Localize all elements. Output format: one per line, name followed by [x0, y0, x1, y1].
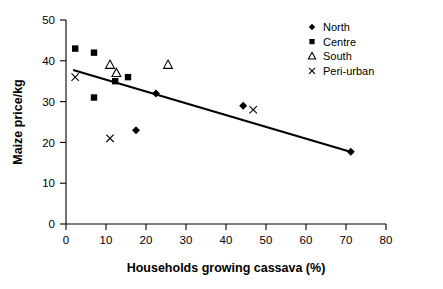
legend-label: North [323, 21, 350, 33]
x-tick-label: 60 [300, 234, 313, 246]
x-tick-label: 40 [220, 234, 233, 246]
data-point-square-filled [72, 45, 78, 51]
y-tick-label: 40 [42, 55, 55, 67]
legend-label: Peri-urban [323, 65, 374, 77]
data-point-square-filled [112, 78, 118, 84]
data-point-square-filled [91, 49, 97, 55]
y-tick-label: 10 [42, 177, 55, 189]
x-tick-label: 0 [63, 234, 69, 246]
x-tick-label: 10 [100, 234, 113, 246]
y-tick-label: 50 [42, 14, 55, 26]
chart-canvas: 0 10 20 30 40 50 0 10 20 30 40 50 [0, 0, 443, 289]
y-axis-title: Maize price/kg [11, 79, 25, 164]
legend-label: Centre [323, 36, 356, 48]
x-axis-title: Households growing cassava (%) [127, 261, 326, 275]
x-tick-label: 70 [340, 234, 353, 246]
data-point-square-filled [125, 74, 131, 80]
scatter-chart: 0 10 20 30 40 50 0 10 20 30 40 50 [0, 0, 443, 289]
legend-label: South [323, 50, 352, 62]
y-tick-label: 30 [42, 96, 55, 108]
y-tick-label: 0 [49, 218, 55, 230]
data-point-square-filled [309, 39, 314, 44]
x-tick-label: 50 [260, 234, 273, 246]
data-point-square-filled [91, 94, 97, 100]
x-tick-label: 20 [140, 234, 153, 246]
x-axis-tick-labels: 0 10 20 30 40 50 60 70 80 [63, 234, 393, 246]
x-tick-label: 30 [180, 234, 193, 246]
y-tick-label: 20 [42, 137, 55, 149]
x-tick-label: 80 [380, 234, 393, 246]
